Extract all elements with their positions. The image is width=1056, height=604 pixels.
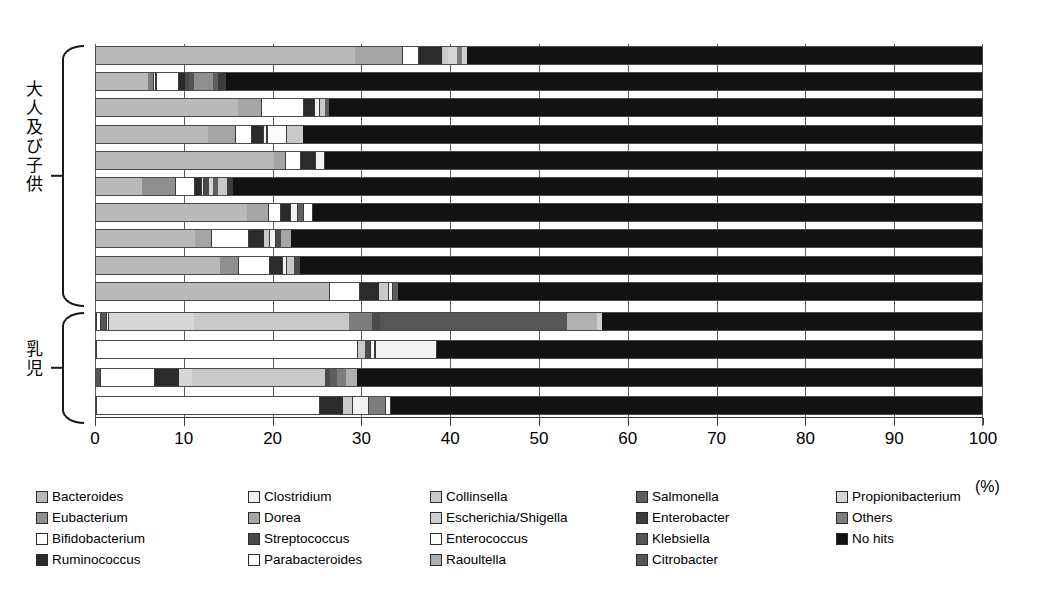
legend-swatch-icon bbox=[430, 512, 442, 524]
legend-label: Raoultella bbox=[446, 552, 506, 567]
legend-swatch-icon bbox=[248, 533, 260, 545]
bar-segment bbox=[218, 73, 225, 90]
legend-item[interactable]: Dorea bbox=[248, 510, 430, 525]
bar-segment bbox=[109, 313, 193, 330]
bar-segment bbox=[290, 204, 298, 221]
legend-label: Eubacterium bbox=[52, 510, 128, 525]
legend-label: Others bbox=[852, 510, 893, 525]
bar-segment bbox=[195, 230, 210, 247]
axis-tick-label-80: 80 bbox=[775, 429, 835, 449]
bar-segment bbox=[268, 204, 280, 221]
legend-row: BacteroidesClostridiumCollinsellaSalmone… bbox=[36, 486, 1046, 507]
axis-tick-80 bbox=[805, 418, 806, 425]
legend-label: Clostridium bbox=[264, 489, 332, 504]
bar-segment bbox=[303, 126, 983, 143]
bar-segment bbox=[175, 178, 195, 195]
legend-item[interactable]: Eubacterium bbox=[36, 510, 248, 525]
bar-row bbox=[95, 46, 983, 65]
axis-tick-label-40: 40 bbox=[420, 429, 480, 449]
bar-row bbox=[95, 340, 983, 359]
legend-swatch-icon bbox=[636, 533, 648, 545]
bar-segment bbox=[142, 178, 175, 195]
legend-item[interactable]: Klebsiella bbox=[636, 531, 836, 546]
axis-tick-label-0: 0 bbox=[65, 429, 125, 449]
legend-item[interactable]: Ruminococcus bbox=[36, 552, 248, 567]
legend-item[interactable]: Others bbox=[836, 510, 1046, 525]
legend-item[interactable]: Escherichia/Shigella bbox=[430, 510, 636, 525]
bar-segment bbox=[96, 341, 358, 358]
legend-item[interactable]: Enterococcus bbox=[430, 531, 636, 546]
legend-label: Enterobacter bbox=[652, 510, 729, 525]
bar-segment bbox=[96, 178, 142, 195]
legend-label: Streptococcus bbox=[264, 531, 350, 546]
bar-segment bbox=[252, 126, 263, 143]
legend-swatch-icon bbox=[248, 554, 260, 566]
bar-segment bbox=[287, 126, 303, 143]
legend-label: Citrobacter bbox=[652, 552, 718, 567]
axis-tick-50 bbox=[539, 418, 540, 425]
bar-segment bbox=[96, 204, 247, 221]
legend-item[interactable]: Bifidobacterium bbox=[36, 531, 248, 546]
bar-segment bbox=[261, 99, 304, 116]
bar-segment bbox=[238, 99, 261, 116]
legend-label: Parabacteroides bbox=[264, 552, 362, 567]
legend-label: Bifidobacterium bbox=[52, 531, 145, 546]
bar-row bbox=[95, 282, 983, 301]
bar-segment bbox=[281, 230, 292, 247]
axis-tick-label-70: 70 bbox=[687, 429, 747, 449]
legend-item[interactable]: Salmonella bbox=[636, 489, 836, 504]
bar-segment bbox=[274, 152, 286, 169]
bar-segment bbox=[357, 369, 983, 386]
axis-tick-90 bbox=[894, 418, 895, 425]
bar-segment bbox=[380, 313, 566, 330]
legend-item[interactable]: Citrobacter bbox=[636, 552, 836, 567]
bar-segment bbox=[329, 99, 983, 116]
legend-item[interactable]: Propionibacterium bbox=[836, 489, 1046, 504]
bar-segment bbox=[211, 230, 249, 247]
bar-segment bbox=[100, 369, 156, 386]
bar-segment bbox=[313, 204, 983, 221]
axis-tick-label-10: 10 bbox=[154, 429, 214, 449]
legend-label: Salmonella bbox=[652, 489, 719, 504]
bar-segment bbox=[301, 152, 315, 169]
bar-segment bbox=[291, 230, 983, 247]
group-label-infants: 乳児 bbox=[24, 340, 42, 378]
bar-segment bbox=[226, 73, 983, 90]
legend-item[interactable]: Clostridium bbox=[248, 489, 430, 504]
bar-segment bbox=[346, 369, 357, 386]
group-label-adults-children: 大人及び子供 bbox=[24, 80, 42, 194]
legend-item[interactable]: Streptococcus bbox=[248, 531, 430, 546]
axis-tick-10 bbox=[184, 418, 185, 425]
legend-item[interactable]: Collinsella bbox=[430, 489, 636, 504]
bar-segment bbox=[372, 313, 380, 330]
bar-segment bbox=[330, 369, 337, 386]
legend-row: RuminococcusParabacteroidesRaoultellaCit… bbox=[36, 549, 1046, 570]
bar-segment bbox=[218, 178, 227, 195]
axis-tick-label-30: 30 bbox=[331, 429, 391, 449]
axis-tick-label-50: 50 bbox=[509, 429, 569, 449]
legend-label: Bacteroides bbox=[52, 489, 123, 504]
bar-segment bbox=[448, 47, 458, 64]
axis-tick-0 bbox=[95, 418, 96, 425]
bar-segment bbox=[379, 283, 388, 300]
bar-segment bbox=[329, 283, 360, 300]
axis-tick-30 bbox=[361, 418, 362, 425]
legend-item[interactable]: Bacteroides bbox=[36, 489, 248, 504]
legend-swatch-icon bbox=[248, 512, 260, 524]
legend-row: BifidobacteriumStreptococcusEnterococcus… bbox=[36, 528, 1046, 549]
bar-row bbox=[95, 396, 983, 415]
legend-item[interactable]: Parabacteroides bbox=[248, 552, 430, 567]
bar-row bbox=[95, 368, 983, 387]
legend-label: Ruminococcus bbox=[52, 552, 141, 567]
legend-item[interactable]: Enterobacter bbox=[636, 510, 836, 525]
bar-segment bbox=[238, 257, 270, 274]
bar-segment bbox=[96, 283, 329, 300]
bar-segment bbox=[391, 397, 983, 414]
legend-label: Escherichia/Shigella bbox=[446, 510, 568, 525]
legend-swatch-icon bbox=[36, 512, 48, 524]
legend-item[interactable]: Raoultella bbox=[430, 552, 636, 567]
bar-segment bbox=[96, 397, 320, 414]
legend-swatch-icon bbox=[836, 533, 848, 545]
legend-item[interactable]: No hits bbox=[836, 531, 1046, 546]
legend-swatch-icon bbox=[430, 533, 442, 545]
